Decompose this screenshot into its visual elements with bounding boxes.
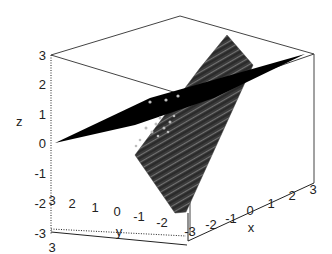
svg-text:3: 3 — [309, 182, 316, 197]
svg-text:-3: -3 — [34, 226, 46, 241]
svg-text:0: 0 — [113, 204, 120, 219]
svg-text:-1: -1 — [34, 166, 46, 181]
y-axis-numbers: 3 2 1 0 -1 -2 y — [48, 193, 167, 239]
svg-text:2: 2 — [288, 188, 295, 203]
svg-text:2: 2 — [39, 77, 46, 92]
svg-text:2: 2 — [68, 196, 75, 211]
svg-text:3: 3 — [48, 240, 55, 254]
svg-text:0: 0 — [246, 203, 253, 218]
x-axis-label: x — [248, 220, 255, 235]
svg-text:-1: -1 — [225, 211, 237, 226]
svg-text:-2: -2 — [34, 196, 46, 211]
svg-text:1: 1 — [91, 200, 98, 215]
x-axis: -3 -2 -1 0 1 2 3 x — [184, 182, 316, 241]
plane-2-surface — [135, 35, 253, 213]
plot-3d: 3 2 1 0 -1 -2 -3 z 3 . 3 3 2 1 0 — [0, 0, 332, 254]
z-axis-label: z — [16, 114, 23, 129]
z-axis: 3 2 1 0 -1 -2 -3 z — [16, 48, 51, 241]
svg-text:-2: -2 — [205, 217, 217, 232]
svg-text:3: 3 — [39, 48, 46, 63]
svg-text:-3: -3 — [184, 224, 196, 239]
svg-text:1: 1 — [267, 196, 274, 211]
svg-text:3: 3 — [48, 193, 55, 208]
y-axis-label: y — [116, 224, 123, 239]
svg-text:1: 1 — [39, 107, 46, 122]
svg-text:-1: -1 — [133, 209, 145, 224]
svg-text:-2: -2 — [156, 215, 168, 230]
svg-text:0: 0 — [39, 136, 46, 151]
